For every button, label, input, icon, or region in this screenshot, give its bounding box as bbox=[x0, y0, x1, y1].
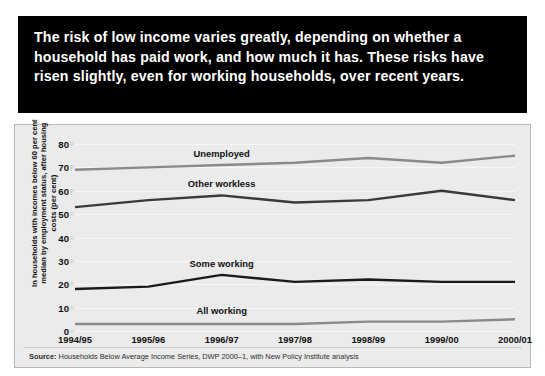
source-prefix: Source: bbox=[29, 352, 57, 361]
series-line bbox=[75, 156, 515, 170]
y-tick-label: 80 bbox=[58, 139, 69, 150]
y-tick-label: 60 bbox=[58, 185, 69, 196]
y-tick-label: 30 bbox=[58, 255, 69, 266]
y-tick-label: 40 bbox=[58, 232, 69, 243]
series-label: All working bbox=[196, 305, 247, 316]
x-tick-label: 1994/95 bbox=[58, 334, 92, 345]
y-tick-label: 70 bbox=[58, 162, 69, 173]
source-text: Households Below Average Income Series, … bbox=[59, 352, 359, 361]
headline-banner: The risk of low income varies greatly, d… bbox=[18, 16, 527, 113]
y-tick-dot bbox=[70, 329, 74, 333]
series-label: Some working bbox=[190, 258, 254, 269]
y-axis-label: In households with incomes below 60 per … bbox=[30, 118, 58, 288]
y-tick-dot bbox=[70, 189, 74, 193]
chart-panel: In households with incomes below 60 per … bbox=[14, 124, 531, 368]
y-tick-label: 10 bbox=[58, 302, 69, 313]
series-label: Other workless bbox=[188, 178, 256, 189]
plot-area: 01020304050607080 UnemployedOther workle… bbox=[75, 144, 515, 331]
source-note: Source: Households Below Average Income … bbox=[29, 352, 359, 361]
x-tick-label: 1995/96 bbox=[131, 334, 165, 345]
figure-root: The risk of low income varies greatly, d… bbox=[0, 0, 545, 376]
x-tick-label: 2000/01 bbox=[498, 334, 532, 345]
y-tick-dot bbox=[70, 236, 74, 240]
gridline bbox=[75, 331, 515, 332]
series-line bbox=[75, 191, 515, 207]
y-tick-label: 20 bbox=[58, 279, 69, 290]
source-divider bbox=[23, 347, 522, 348]
series-line bbox=[75, 275, 515, 289]
series-label: Unemployed bbox=[194, 148, 250, 159]
y-tick-dot bbox=[70, 212, 74, 216]
y-tick-dot bbox=[70, 142, 74, 146]
y-tick-dot bbox=[70, 165, 74, 169]
series-lines bbox=[75, 144, 515, 331]
x-tick-label: 1997/98 bbox=[278, 334, 312, 345]
x-tick-label: 1998/99 bbox=[351, 334, 385, 345]
y-tick-dot bbox=[70, 259, 74, 263]
x-tick-label: 1999/00 bbox=[425, 334, 459, 345]
y-tick-label: 50 bbox=[58, 209, 69, 220]
y-tick-dot bbox=[70, 282, 74, 286]
y-tick-dot bbox=[70, 306, 74, 310]
x-tick-label: 1996/97 bbox=[205, 334, 239, 345]
headline-text: The risk of low income varies greatly, d… bbox=[34, 28, 511, 87]
series-line bbox=[75, 319, 515, 324]
